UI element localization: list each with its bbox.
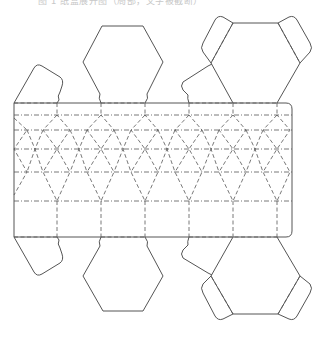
bottom-right-hexagon-cap — [202, 237, 312, 320]
horizontal-fold-lines — [14, 103, 292, 237]
top-hexagon-cap — [83, 26, 163, 103]
diamond-fold-lattice — [14, 115, 290, 201]
body-panel — [14, 103, 292, 237]
bottom-left-glue-flap — [14, 237, 63, 275]
top-small-glue-flap — [182, 64, 213, 103]
bottom-hexagon-cap — [83, 237, 163, 311]
top-left-glue-flap — [14, 65, 63, 103]
papercraft-net-diagram — [0, 0, 329, 338]
vertical-fold-lines — [57, 103, 277, 237]
top-right-hexagon-cap — [202, 16, 312, 103]
bottom-small-glue-flap — [182, 237, 213, 275]
